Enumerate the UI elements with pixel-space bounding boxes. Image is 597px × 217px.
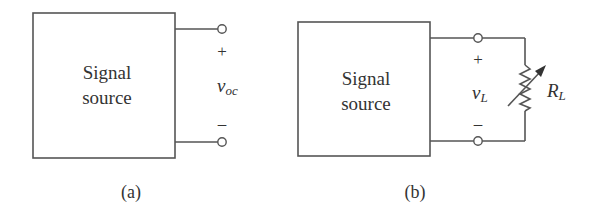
minus-sign-a: –	[217, 114, 227, 133]
voltage-label-vl: vL	[472, 82, 488, 105]
caption-a: (a)	[121, 182, 141, 203]
load-subscript: L	[558, 88, 566, 103]
figure: Signal source + – voc (a) Signal source	[0, 0, 597, 217]
signal-source-label-line1-b: Signal	[342, 68, 391, 89]
load-symbol: R	[546, 80, 559, 101]
panel-a: Signal source + – voc (a)	[33, 13, 238, 203]
bottom-terminal-b	[474, 137, 482, 145]
signal-source-label-line2-a: source	[82, 87, 132, 108]
circuit-diagram: Signal source + – voc (a) Signal source	[0, 0, 597, 217]
voltage-label-voc: voc	[217, 75, 238, 98]
signal-source-block-a	[33, 13, 175, 158]
voltage-subscript-b: L	[479, 90, 487, 105]
top-terminal-b	[474, 34, 482, 42]
top-terminal-a	[218, 25, 226, 33]
voltage-subscript-a: oc	[225, 83, 238, 98]
panel-b: Signal source + – vL RL (b)	[298, 22, 566, 203]
load-resistor-label: RL	[546, 80, 566, 103]
bottom-terminal-a	[218, 138, 226, 146]
signal-source-block-b	[298, 22, 430, 156]
plus-sign-b: +	[473, 50, 483, 69]
plus-sign-a: +	[217, 42, 227, 61]
minus-sign-b: –	[473, 114, 483, 133]
signal-source-label-line2-b: source	[341, 93, 391, 114]
signal-source-label-line1-a: Signal	[83, 62, 132, 83]
caption-b: (b)	[405, 182, 426, 203]
